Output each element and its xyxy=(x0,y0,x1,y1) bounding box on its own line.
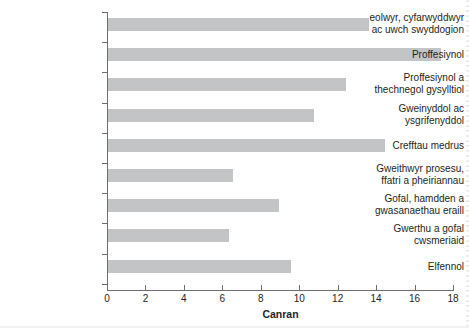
x-axis-tick-label: 16 xyxy=(395,293,435,305)
category-label: Gwerthu a gofalcwsmeriaid xyxy=(365,223,469,247)
bar xyxy=(108,139,385,152)
x-axis-tick-label: 2 xyxy=(125,293,165,305)
bar xyxy=(108,229,229,242)
x-axis-tick xyxy=(415,285,416,290)
category-label-line: cwsmeriaid xyxy=(365,235,464,247)
category-label: Crefftau medrus xyxy=(365,140,469,152)
x-axis-tick xyxy=(222,285,223,290)
x-axis-tick-label: 4 xyxy=(164,293,204,305)
category-label-line: Proffesiynol xyxy=(365,49,464,61)
category-label-line: Crefftau medrus xyxy=(365,140,464,152)
x-axis-tick-label: 0 xyxy=(87,293,127,305)
category-label: Proffesiynol xyxy=(365,49,469,61)
y-axis-tick xyxy=(102,72,107,73)
category-label-line: Proffesiynol a xyxy=(365,72,464,84)
y-axis-tick xyxy=(102,12,107,13)
x-axis-tick-label: 6 xyxy=(202,293,242,305)
category-label-line: ysgrifenyddol xyxy=(365,115,464,127)
value-axis-line xyxy=(107,290,454,291)
category-label: Elfennol xyxy=(365,261,469,273)
category-label-line: gwasanaethau eraill xyxy=(365,205,464,217)
bar xyxy=(108,109,314,122)
bar xyxy=(108,169,233,182)
category-label: Proffesiynol athechnegol gysylltiol xyxy=(365,72,469,96)
x-axis-title: Canran xyxy=(107,308,454,320)
x-axis-tick xyxy=(338,285,339,290)
category-label-line: Gweithwyr prosesu, xyxy=(365,163,464,175)
x-axis-tick-label: 18 xyxy=(433,293,469,305)
category-label-line: Gwerthu a gofal xyxy=(365,223,464,235)
bar xyxy=(108,199,279,212)
category-label-line: Gofal, hamdden a xyxy=(365,193,464,205)
category-label-line: Gweinyddol ac xyxy=(365,103,464,115)
y-axis-tick xyxy=(102,133,107,134)
bar xyxy=(108,18,369,31)
x-axis-tick xyxy=(299,285,300,290)
x-axis-tick xyxy=(107,285,108,290)
x-axis-tick xyxy=(376,285,377,290)
category-label-line: ffatri a pheiriannau xyxy=(365,175,464,187)
category-label: Gweithwyr prosesu,ffatri a pheiriannau xyxy=(365,163,469,187)
bar xyxy=(108,78,346,91)
x-axis-tick-label: 8 xyxy=(241,293,281,305)
category-label: eolwyr, cyfarwyddwyrac uwch swyddogion xyxy=(365,12,469,36)
category-label-line: ac uwch swyddogion xyxy=(365,24,464,36)
bar xyxy=(108,260,291,273)
y-axis-tick xyxy=(102,254,107,255)
category-label: Gweinyddol acysgrifenyddol xyxy=(365,103,469,127)
category-label: Gofal, hamdden agwasanaethau eraill xyxy=(365,193,469,217)
y-axis-tick xyxy=(102,223,107,224)
x-axis-tick xyxy=(184,285,185,290)
x-axis-tick-label: 14 xyxy=(356,293,396,305)
category-label-line: eolwyr, cyfarwyddwyr xyxy=(365,12,464,24)
category-label-line: thechnegol gysylltiol xyxy=(365,84,464,96)
y-axis-tick xyxy=(102,42,107,43)
bar-chart: eolwyr, cyfarwyddwyrac uwch swyddogionPr… xyxy=(0,0,469,328)
x-axis-tick xyxy=(261,285,262,290)
x-axis-tick-label: 12 xyxy=(318,293,358,305)
y-axis-tick xyxy=(102,163,107,164)
y-axis-tick xyxy=(102,193,107,194)
y-axis-tick xyxy=(102,103,107,104)
x-axis-tick xyxy=(453,285,454,290)
x-axis-tick-label: 10 xyxy=(279,293,319,305)
category-label-line: Elfennol xyxy=(365,261,464,273)
x-axis-tick xyxy=(145,285,146,290)
